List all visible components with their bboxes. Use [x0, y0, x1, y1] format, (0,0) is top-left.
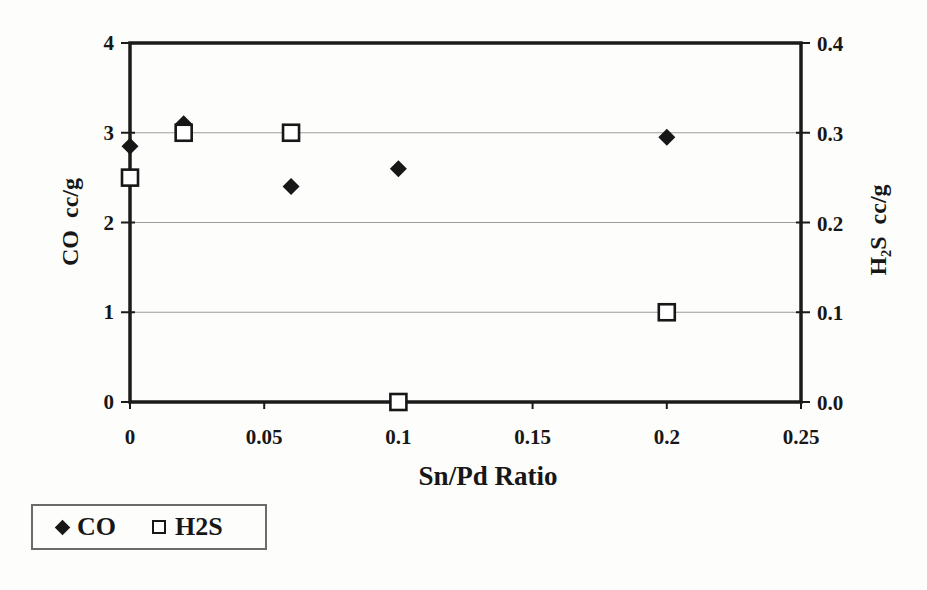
co-point [390, 160, 407, 177]
legend-label-h2s: H2S [175, 514, 223, 540]
x-tick-label: 0.1 [385, 425, 411, 449]
left-tick-label: 4 [104, 31, 115, 55]
x-axis-title: Sn/Pd Ratio [419, 461, 558, 492]
legend-item-co: CO [57, 514, 116, 540]
h2s-point [390, 394, 406, 410]
legend-label-co: CO [77, 514, 116, 540]
co-point [658, 129, 675, 146]
left-tick-label: 1 [104, 300, 115, 324]
x-tick-label: 0.15 [514, 425, 551, 449]
x-tick-label: 0.25 [783, 425, 820, 449]
co-point [283, 178, 300, 195]
plot-area: 00.050.10.150.20.25012340.00.10.20.30.4 [0, 0, 927, 590]
right-tick-label: 0.3 [817, 122, 843, 146]
h2s-point [176, 125, 192, 141]
x-tick-label: 0.05 [246, 425, 283, 449]
legend: CO H2S [31, 504, 267, 550]
x-tick-label: 0 [125, 425, 136, 449]
left-tick-label: 3 [104, 121, 115, 145]
right-axis-title: H₂S cc/g [865, 184, 892, 275]
left-tick-label: 0 [104, 390, 115, 414]
square-marker-icon [152, 520, 166, 534]
legend-item-h2s: H2S [152, 514, 223, 540]
x-tick-label: 0.2 [654, 425, 680, 449]
co-point [122, 138, 139, 155]
h2s-point [659, 304, 675, 320]
left-tick-label: 2 [104, 211, 115, 235]
diamond-marker-icon [55, 519, 71, 535]
right-tick-label: 0.2 [817, 212, 843, 236]
right-tick-label: 0.0 [817, 391, 843, 415]
right-tick-label: 0.1 [817, 301, 843, 325]
right-tick-label: 0.4 [817, 32, 844, 56]
h2s-point [122, 170, 138, 186]
h2s-point [283, 125, 299, 141]
chart-canvas: 00.050.10.150.20.25012340.00.10.20.30.4 … [0, 0, 927, 590]
left-axis-title: CO cc/g [57, 178, 84, 266]
